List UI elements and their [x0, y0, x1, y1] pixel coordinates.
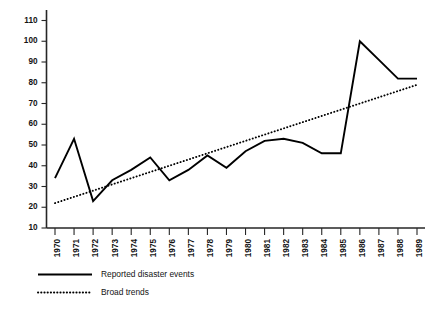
x-tick-label: 1970	[53, 239, 62, 258]
x-tick-label: 1980	[244, 239, 253, 258]
x-tick-label: 1985	[339, 239, 348, 258]
x-tick-label: 1976	[168, 239, 177, 258]
x-tick-label: 1972	[91, 239, 100, 258]
x-tick-label: 1984	[320, 239, 329, 258]
x-tick-label: 1971	[72, 239, 81, 258]
x-tick-label: 1975	[149, 239, 158, 258]
y-axis-ticks: 102030405060708090100110	[24, 16, 47, 233]
y-tick-label: 40	[28, 161, 38, 170]
chart-container: 102030405060708090100110 197019711972197…	[0, 0, 440, 312]
x-tick-label: 1982	[282, 239, 291, 258]
chart-legend: Reported disaster events Broad trends	[38, 269, 194, 297]
x-tick-label: 1987	[377, 239, 386, 258]
x-tick-label: 1978	[206, 239, 215, 258]
x-tick-label: 1973	[111, 239, 120, 258]
series-reported-disaster-events	[55, 41, 417, 201]
y-tick-label: 90	[28, 57, 38, 66]
y-tick-label: 10	[28, 223, 38, 232]
x-tick-label: 1986	[358, 239, 367, 258]
y-tick-label: 50	[28, 140, 38, 149]
y-tick-label: 20	[28, 202, 38, 211]
x-tick-label: 1981	[263, 239, 272, 258]
x-tick-label: 1989	[415, 239, 424, 258]
y-tick-label: 30	[28, 182, 38, 191]
disaster-events-line-chart: 102030405060708090100110 197019711972197…	[0, 0, 440, 312]
legend-label-reported-disaster-events: Reported disaster events	[101, 269, 194, 279]
x-tick-label: 1974	[130, 239, 139, 258]
x-tick-label: 1977	[187, 239, 196, 258]
y-tick-label: 110	[24, 16, 38, 25]
x-tick-label: 1979	[225, 239, 234, 258]
y-tick-label: 80	[28, 78, 38, 87]
y-tick-label: 60	[28, 119, 38, 128]
x-axis-ticks: 1970197119721973197419751976197719781979…	[53, 228, 424, 257]
legend-label-broad-trends: Broad trends	[101, 287, 149, 297]
y-tick-label: 70	[28, 99, 38, 108]
x-tick-label: 1983	[301, 239, 310, 258]
y-tick-label: 100	[24, 36, 38, 45]
series-broad-trends	[55, 85, 417, 203]
x-tick-label: 1988	[396, 239, 405, 258]
